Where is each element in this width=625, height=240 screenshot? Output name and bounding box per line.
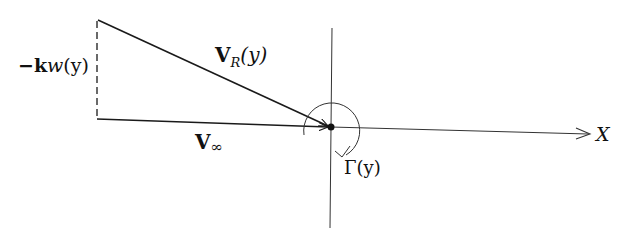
freestream-vector	[97, 119, 328, 127]
circulation-label: Γ(y)	[344, 157, 381, 178]
vector-diagram: −kw(y) VR(y) V∞ Γ(y) X	[0, 0, 625, 240]
x-axis	[331, 127, 588, 134]
x-axis-label: X	[594, 123, 611, 145]
downwash-label: −kw(y)	[18, 54, 89, 76]
origin-point	[328, 124, 335, 131]
freestream-label: V∞	[194, 130, 223, 156]
circulation-arrowhead	[335, 146, 350, 157]
resultant-vector	[98, 20, 328, 126]
resultant-label: VR(y)	[214, 43, 267, 70]
